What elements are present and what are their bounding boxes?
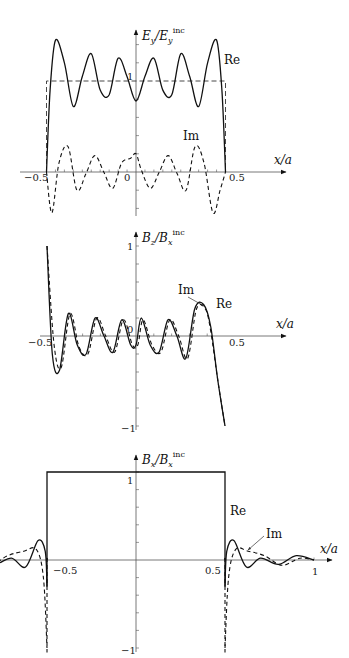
plot-bx: −0.5 0.5 1 1 −1 x/a Bx/Bxinc Re Im xyxy=(0,450,338,656)
plot-ey: −0.5 0 0.5 1 x/a Ey/Eyinc Re Im xyxy=(20,26,292,216)
im-pointer-arrow xyxy=(248,536,264,550)
tick-label-y-neg1: −1 xyxy=(121,423,136,434)
x-axis-label: x/a xyxy=(276,317,294,331)
x-axis-label: x/a xyxy=(320,542,338,556)
tick-label-x-05: 0.5 xyxy=(229,337,245,348)
tick-label-x-05: 0.5 xyxy=(205,565,221,576)
tick-label-x-neg05: −0.5 xyxy=(24,172,48,183)
curve-label-re: Re xyxy=(224,53,240,67)
tick-label-y-1: 1 xyxy=(127,241,133,252)
plot-bz: −0.5 0 0.5 1 −1 x/a Bz/Bxinc Im Re xyxy=(28,228,294,434)
curve-label-re: Re xyxy=(230,504,246,518)
curve-label-re: Re xyxy=(216,297,232,311)
curve-label-im: Im xyxy=(266,527,283,541)
tick-label-y-1: 1 xyxy=(127,71,133,82)
figure: −0.5 0 0.5 1 x/a Ey/Eyinc Re Im −0.5 0 0… xyxy=(0,0,349,658)
y-axis-label: Bz/Bxinc xyxy=(141,228,185,247)
svg-text:Bx/Bxinc: Bx/Bxinc xyxy=(141,450,185,469)
y-axis-label: Bx/Bxinc xyxy=(141,450,185,469)
tick-label-x-05: 0.5 xyxy=(229,172,245,183)
tick-label-x-1: 1 xyxy=(312,566,318,577)
tick-label-y-1: 1 xyxy=(127,475,133,486)
x-axis-label: x/a xyxy=(274,153,292,167)
tick-label-x-0: 0 xyxy=(127,324,133,335)
tick-label-x-neg05: −0.5 xyxy=(28,337,52,348)
svg-text:Bz/Bxinc: Bz/Bxinc xyxy=(141,228,185,247)
tick-label-x-neg05: −0.5 xyxy=(53,565,77,576)
tick-label-x-0: 0 xyxy=(124,172,130,183)
tick-label-y-neg1: −1 xyxy=(121,645,136,656)
svg-text:Ey/Eyinc: Ey/Eyinc xyxy=(141,26,185,45)
curve-label-im: Im xyxy=(178,283,195,297)
y-axis-label: Ey/Eyinc xyxy=(141,26,185,45)
curve-label-im: Im xyxy=(183,129,200,143)
